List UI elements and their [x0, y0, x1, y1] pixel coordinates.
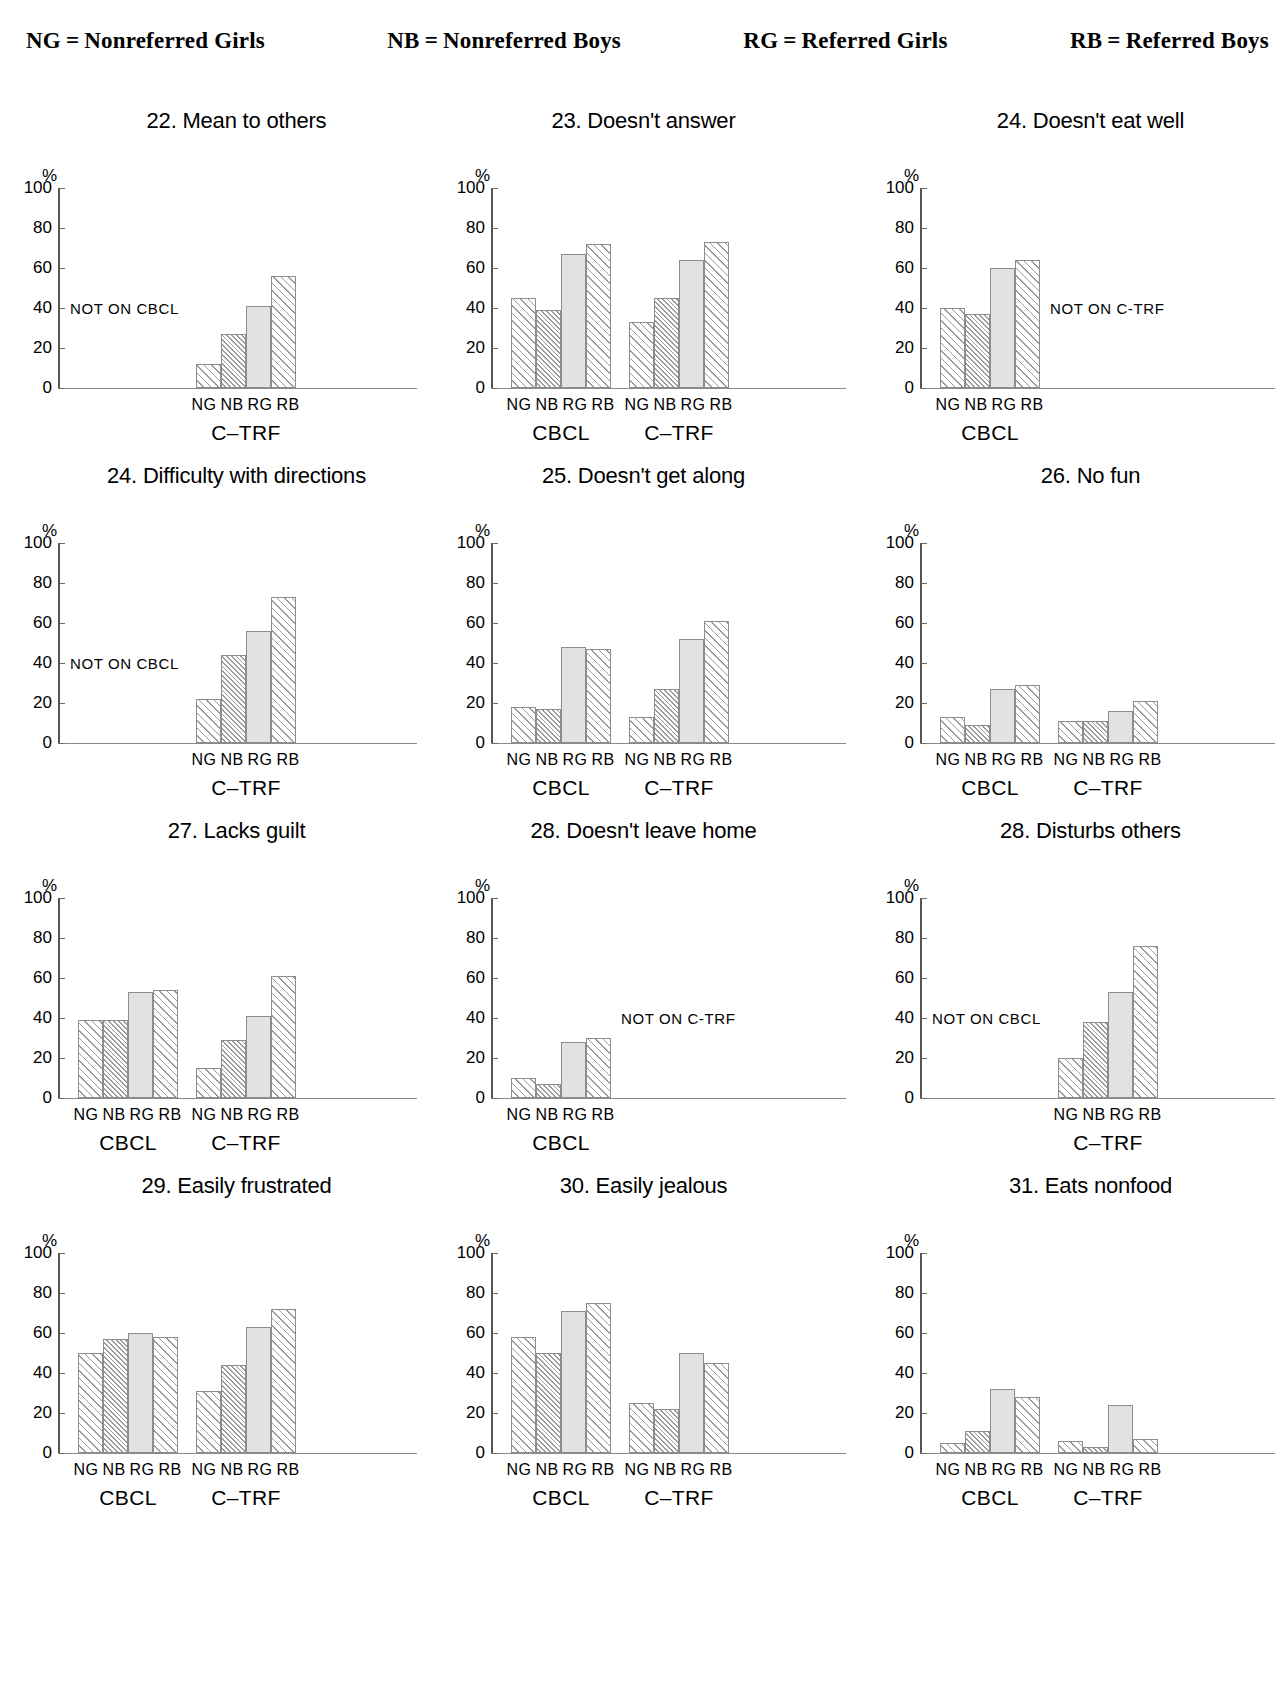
- x-axis-line: [920, 1453, 1275, 1454]
- bar-rg: [1108, 711, 1133, 743]
- chart-plot-area: %100806040200NOT ON CBCLNGNBRGRBC–TRF: [858, 810, 1287, 1165]
- x-axis-category-label: NB: [218, 1461, 246, 1479]
- y-axis-tick: [492, 388, 498, 389]
- x-axis-category-labels: NGNBRGRB: [190, 751, 302, 769]
- x-axis-category-label: NG: [190, 1461, 218, 1479]
- x-axis-category-label: RB: [589, 1461, 617, 1479]
- instrument-label: CBCL: [501, 1131, 621, 1155]
- x-axis-line: [58, 1098, 417, 1099]
- y-axis-tick-label: 100: [880, 178, 914, 198]
- bar-rg: [1108, 992, 1133, 1098]
- x-axis-category-label: RB: [274, 396, 302, 414]
- x-axis-category-label: NG: [934, 1461, 962, 1479]
- y-axis-line: [58, 1253, 60, 1454]
- x-axis-category-labels: NGNBRGRB: [505, 1106, 617, 1124]
- y-axis-tick-label: 0: [18, 1088, 52, 1108]
- y-axis-tick: [921, 543, 927, 544]
- x-axis-line: [491, 743, 846, 744]
- instrument-label: CBCL: [930, 1486, 1050, 1510]
- y-axis-tick: [59, 308, 65, 309]
- x-axis-category-label: RB: [156, 1106, 184, 1124]
- y-axis-tick: [492, 978, 498, 979]
- bar-rb: [153, 1337, 178, 1453]
- y-axis-tick-label: 100: [18, 178, 52, 198]
- x-axis-category-label: NG: [1052, 751, 1080, 769]
- x-axis-category-label: NG: [505, 751, 533, 769]
- bar-ng: [78, 1020, 103, 1098]
- y-axis-tick: [921, 623, 927, 624]
- y-axis-tick-label: 100: [18, 1243, 52, 1263]
- y-axis-tick-label: 40: [451, 298, 485, 318]
- legend-term: Referred Boys: [1126, 28, 1269, 53]
- chart-panel: 26. No fun%100806040200NGNBRGRBCBCLNGNBR…: [858, 455, 1287, 810]
- x-axis-category-label: NB: [533, 751, 561, 769]
- legend-row: NG=Nonreferred GirlsNB=Nonreferred BoysR…: [26, 28, 1269, 54]
- y-axis-tick-label: 60: [880, 613, 914, 633]
- y-axis-tick-label: 100: [18, 888, 52, 908]
- y-axis-tick: [921, 978, 927, 979]
- y-axis-tick: [492, 663, 498, 664]
- y-axis-tick-label: 20: [451, 1403, 485, 1423]
- y-axis-tick-label: 80: [18, 573, 52, 593]
- bar-ng: [511, 707, 536, 743]
- x-axis-category-label: RG: [561, 751, 589, 769]
- legend-equals-sign: =: [778, 28, 801, 53]
- bar-rg: [561, 1042, 586, 1098]
- y-axis-tick: [492, 188, 498, 189]
- bar-rb: [586, 1303, 611, 1453]
- x-axis-category-label: NB: [1080, 1106, 1108, 1124]
- x-axis-category-label: NB: [1080, 1461, 1108, 1479]
- x-axis-category-labels: NGNBRGRB: [72, 1106, 184, 1124]
- legend-entry-ng: NG=Nonreferred Girls: [26, 28, 265, 54]
- bar-ng: [629, 717, 654, 743]
- instrument-label: C–TRF: [1048, 776, 1168, 800]
- y-axis-tick: [921, 308, 927, 309]
- x-axis-category-label: NB: [100, 1106, 128, 1124]
- y-axis-tick: [59, 898, 65, 899]
- y-axis-tick: [492, 228, 498, 229]
- y-axis-tick-label: 40: [18, 298, 52, 318]
- y-axis-tick-label: 0: [18, 1443, 52, 1463]
- bar-rg: [128, 1333, 153, 1453]
- x-axis-category-labels: NGNBRGRB: [623, 751, 735, 769]
- bar-nb: [221, 1040, 246, 1098]
- y-axis-tick-label: 20: [18, 338, 52, 358]
- legend-equals-sign: =: [1102, 28, 1125, 53]
- y-axis-tick: [921, 1293, 927, 1294]
- chart-panel: 28. Disturbs others%100806040200NOT ON C…: [858, 810, 1287, 1165]
- y-axis-tick-label: 20: [18, 1048, 52, 1068]
- bar-nb: [221, 334, 246, 388]
- bar-rg: [561, 1311, 586, 1453]
- y-axis-tick: [921, 348, 927, 349]
- x-axis-category-label: RB: [274, 1461, 302, 1479]
- x-axis-category-label: RG: [561, 396, 589, 414]
- x-axis-line: [58, 743, 417, 744]
- y-axis-tick-label: 60: [880, 1323, 914, 1343]
- legend-abbr: RG: [743, 28, 778, 53]
- instrument-label: C–TRF: [186, 1486, 306, 1510]
- x-axis-category-label: RB: [1136, 1106, 1164, 1124]
- x-axis-category-label: NG: [505, 396, 533, 414]
- y-axis-line: [58, 898, 60, 1099]
- chart-panel: 24. Difficulty with directions%100806040…: [0, 455, 429, 810]
- y-axis-tick: [59, 268, 65, 269]
- x-axis-category-label: NB: [962, 1461, 990, 1479]
- y-axis-tick: [59, 583, 65, 584]
- bar-nb: [536, 1084, 561, 1098]
- bar-ng: [1058, 721, 1083, 743]
- bar-nb: [221, 1365, 246, 1453]
- x-axis-category-label: RG: [990, 751, 1018, 769]
- bar-nb: [536, 1353, 561, 1453]
- y-axis-tick: [59, 1253, 65, 1254]
- y-axis-tick-label: 40: [18, 653, 52, 673]
- bar-nb: [536, 310, 561, 388]
- x-axis-category-label: NG: [1052, 1106, 1080, 1124]
- bar-rb: [1015, 685, 1040, 743]
- bar-rb: [271, 276, 296, 388]
- chart-plot-area: %100806040200NGNBRGRBCBCLNGNBRGRBC–TRF: [429, 100, 858, 455]
- instrument-label: CBCL: [930, 776, 1050, 800]
- bar-rb: [704, 621, 729, 743]
- instrument-label: C–TRF: [1048, 1131, 1168, 1155]
- y-axis-tick: [921, 188, 927, 189]
- bar-ng: [196, 364, 221, 388]
